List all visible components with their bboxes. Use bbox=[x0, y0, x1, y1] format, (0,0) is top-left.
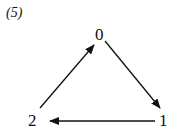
node-2: 2 bbox=[28, 112, 37, 129]
edge-0-to-1 bbox=[105, 41, 160, 108]
edge-2-to-0 bbox=[40, 45, 94, 108]
directed-cycle-graph bbox=[0, 0, 177, 134]
node-1: 1 bbox=[159, 112, 168, 129]
node-0: 0 bbox=[95, 26, 104, 43]
